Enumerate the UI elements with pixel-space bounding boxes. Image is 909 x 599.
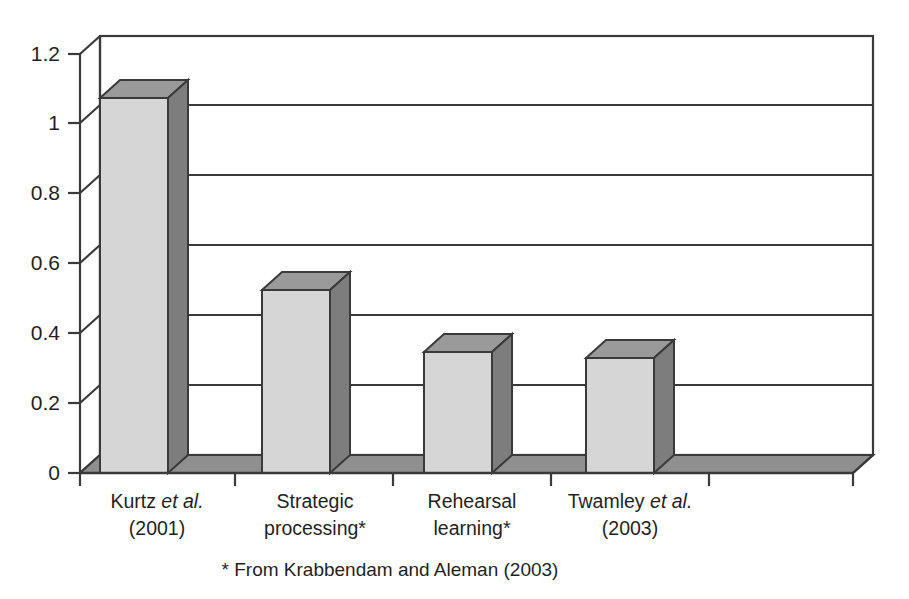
x-axis-category-labels: Kurtz et al. (2001) Strategic processing…	[110, 490, 692, 539]
ytick-label-0.4: 0.4	[31, 321, 61, 344]
depth-edge-0.2	[80, 385, 100, 403]
ytick-label-0.8: 0.8	[31, 181, 60, 204]
bar-kurtz[interactable]	[100, 80, 188, 473]
category-label-twamley-line1: Twamley et al.	[568, 490, 693, 512]
depth-edge-1.0	[80, 105, 100, 123]
ytick-label-0.6: 0.6	[31, 251, 60, 274]
y-axis-tick-labels: 1.2 1 0.8 0.6 0.4 0.2 0	[31, 42, 61, 484]
chart-container: 1.2 1 0.8 0.6 0.4 0.2 0	[0, 0, 909, 599]
category-label-italic: et al.	[650, 490, 692, 512]
x-axis-ticks	[80, 473, 853, 486]
bar-rehearsal-learning[interactable]	[424, 334, 512, 473]
bar-side-face	[168, 80, 188, 473]
category-label-strategic-line2: processing*	[264, 517, 366, 539]
chart-footnote: * From Krabbendam and Aleman (2003)	[222, 559, 559, 580]
depth-edge-0.6	[80, 245, 100, 263]
depth-edge-0.8	[80, 175, 100, 193]
bar-chart-3d: 1.2 1 0.8 0.6 0.4 0.2 0	[0, 0, 909, 599]
bar-front-face	[100, 98, 168, 473]
bar-side-face	[330, 272, 350, 473]
category-label-kurtz-line1: Kurtz et al.	[110, 490, 203, 512]
left-wall-top-edge	[80, 36, 100, 54]
category-label-strategic-line1: Strategic	[277, 490, 354, 512]
category-label-text: Twamley	[568, 490, 645, 512]
category-label-italic: et al.	[161, 490, 203, 512]
category-label-twamley-line2: (2003)	[602, 517, 658, 539]
bar-front-face	[262, 290, 330, 473]
ytick-label-0.2: 0.2	[31, 391, 60, 414]
bar-front-face	[586, 358, 654, 473]
ytick-label-0.0: 0	[48, 461, 60, 484]
category-label-rehearsal-line2: learning*	[434, 517, 511, 539]
category-label-rehearsal-line1: Rehearsal	[428, 490, 517, 512]
bar-twamley[interactable]	[586, 340, 674, 473]
y-axis-ticks	[68, 54, 80, 473]
category-label-kurtz-line2: (2001)	[129, 517, 185, 539]
ytick-label-1.2: 1.2	[31, 42, 60, 65]
bar-strategic-processing[interactable]	[262, 272, 350, 473]
bar-side-face	[654, 340, 674, 473]
depth-edge-0.4	[80, 315, 100, 333]
category-label-text: Kurtz	[110, 490, 156, 512]
bar-side-face	[492, 334, 512, 473]
ytick-label-1.0: 1	[48, 111, 60, 134]
bar-front-face	[424, 352, 492, 473]
plot-left-wall	[80, 36, 100, 473]
x-axis	[80, 473, 853, 486]
